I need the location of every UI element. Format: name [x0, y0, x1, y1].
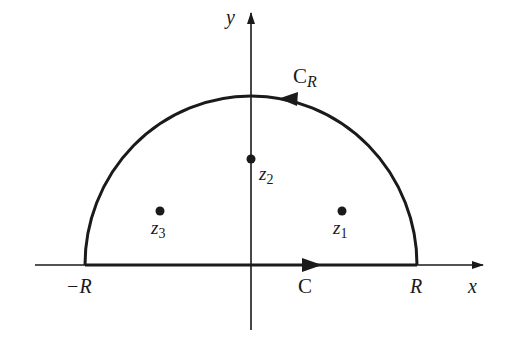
- right-endpoint-label: R: [409, 275, 422, 297]
- point-z3-label: z3: [150, 217, 165, 241]
- point-z1: [338, 207, 347, 216]
- segment-label: C: [298, 274, 312, 298]
- point-z3: [156, 207, 165, 216]
- arc-direction-arrow-icon: [279, 92, 298, 106]
- point-z1-label: z1: [332, 217, 347, 241]
- arc-label: CR: [293, 64, 317, 90]
- point-z2-label: z2: [258, 163, 273, 187]
- point-z2: [247, 155, 256, 164]
- contour-diagram: y x CR C −R R z1 z2 z3: [0, 0, 509, 350]
- segment-direction-arrow-icon: [302, 258, 322, 272]
- left-endpoint-label: −R: [66, 275, 92, 297]
- x-axis-label: x: [467, 275, 477, 297]
- y-axis-label: y: [224, 6, 235, 29]
